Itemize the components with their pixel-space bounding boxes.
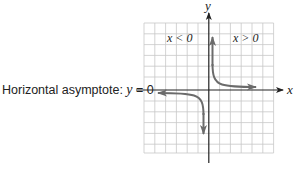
curve-branch-right [213,64,257,87]
horizontal-asymptote-label: Horizontal asymptote: y = 0 [2,82,154,98]
region-label-left: x < 0 [166,31,192,45]
y-axis-label: y [203,0,211,13]
axes [136,13,283,163]
asymptote-diagram: x y x < 0 x > 0 Horizontal asymptote: y … [0,0,298,170]
x-axis-label: x [286,82,293,97]
region-label-right: x > 0 [232,31,258,45]
asymptote-label-suffix: = 0 [133,83,154,97]
asymptote-label-prefix: Horizontal asymptote: [2,83,126,97]
